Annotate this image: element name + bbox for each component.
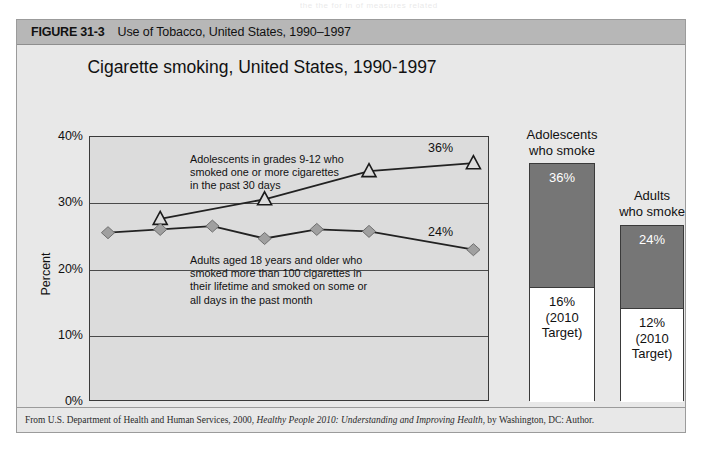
bar-segment-adolescents-target: 16% (2010 Target) [530, 287, 594, 402]
annotation-adolescents-line-1: Adolescents in grades 9-12 who [190, 153, 390, 166]
y-axis-tick-labels: 40% 30% 20% 10% 0% [33, 136, 83, 401]
marker-adults-1993 [258, 233, 271, 245]
figure-container: FIGURE 31-3 Use of Tobacco, United State… [16, 19, 686, 433]
source-note-prefix: From U.S. Department of Health and Human… [25, 415, 256, 425]
y-tick-20: 20% [58, 262, 83, 276]
annotation-adults-line-2: smoked more than 100 cigarettes in [190, 267, 405, 280]
y-tick-10: 10% [58, 328, 83, 342]
page-bleed-text: the the for in of measures related [300, 1, 695, 10]
source-note: From U.S. Department of Health and Human… [25, 415, 594, 425]
bar-label-adolescents-target-sub1: (2010 [545, 310, 578, 326]
annotation-adolescents: Adolescents in grades 9-12 who smoked on… [190, 153, 390, 193]
marker-adolescents-1991 [153, 211, 167, 224]
source-note-title: Healthy People 2010: Understanding and I… [256, 415, 482, 425]
bar-label-adults-current: 24% [639, 232, 665, 248]
marker-adults-1997 [467, 244, 480, 256]
y-tick-40: 40% [58, 129, 83, 143]
chart-plot-area: Adolescents in grades 9-12 who smoked on… [89, 136, 489, 401]
marker-adults-1992 [206, 220, 219, 232]
bar-label-adults-target: 12% [639, 315, 665, 331]
bar-segment-adults-target: 12% (2010 Target) [621, 308, 683, 402]
gridline-10 [90, 336, 488, 337]
bar-segment-adults-current: 24% [621, 226, 683, 308]
data-label-adults-24: 24% [428, 225, 453, 239]
annotation-adults-line-1: Adults aged 18 years and older who [190, 254, 405, 267]
side-bar-adolescents-title: Adolescents who smoke [527, 127, 598, 159]
annotation-adults-line-4: all days in the past month [190, 294, 405, 307]
stacked-bar-adults: 24% 12% (2010 Target) [620, 225, 684, 401]
marker-adults-1990 [101, 227, 114, 239]
side-bar-adults-title-line-1: Adults [619, 188, 685, 204]
figure-number: FIGURE 31-3 [31, 25, 105, 39]
annotation-adults-line-3: their lifetime and smoked on some or [190, 280, 405, 293]
annotation-adolescents-line-2: smoked one or more cigarettes [190, 166, 390, 179]
data-label-adolescents-36: 36% [428, 141, 453, 155]
gridline-30 [90, 203, 488, 204]
bar-label-adolescents-target: 16% [549, 294, 575, 310]
bar-label-adolescents-target-sub2: Target) [542, 325, 582, 341]
side-bar-adults-title-line-2: who smoke [619, 204, 685, 220]
figure-body: Cigarette smoking, United States, 1990-1… [17, 45, 685, 408]
marker-adults-1994 [310, 223, 323, 235]
stacked-bar-adolescents: 36% 16% (2010 Target) [529, 163, 595, 401]
source-note-suffix: , by Washington, DC: Author. [483, 415, 594, 425]
side-bar-adolescents-title-line-2: who smoke [527, 143, 598, 159]
figure-caption: Use of Tobacco, United States, 1990–1997 [118, 25, 351, 39]
side-bar-adolescents-title-line-1: Adolescents [527, 127, 598, 143]
y-tick-30: 30% [58, 195, 83, 209]
annotation-adolescents-line-3: in the past 30 days [190, 179, 390, 192]
y-tick-0: 0% [65, 394, 83, 408]
bar-label-adults-target-sub2: Target) [632, 346, 672, 362]
marker-adults-1991 [154, 223, 167, 235]
bar-label-adolescents-current: 36% [549, 170, 575, 186]
bar-label-adults-target-sub1: (2010 [635, 331, 668, 347]
marker-adults-1995 [362, 225, 375, 237]
bar-segment-adolescents-current: 36% [530, 164, 594, 287]
series-adults-line [108, 226, 473, 250]
figure-footer: From U.S. Department of Health and Human… [17, 407, 685, 432]
annotation-adults: Adults aged 18 years and older who smoke… [190, 254, 405, 307]
figure-header: FIGURE 31-3 Use of Tobacco, United State… [17, 20, 685, 45]
marker-adolescents-1997 [466, 156, 480, 169]
side-bar-adults-title: Adults who smoke [619, 188, 685, 220]
